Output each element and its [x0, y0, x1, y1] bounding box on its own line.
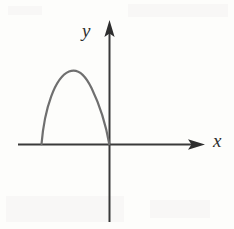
- plot-area: [0, 0, 234, 229]
- figure-container: y x: [0, 0, 234, 229]
- x-axis-label: x: [213, 131, 221, 150]
- parabola-curve: [42, 71, 110, 145]
- y-axis-label: y: [82, 21, 90, 40]
